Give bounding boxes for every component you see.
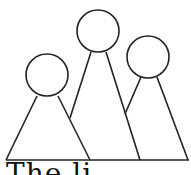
right-head xyxy=(127,36,169,78)
left-head xyxy=(26,54,68,96)
middle-body-left xyxy=(70,52,91,118)
middle-body-right xyxy=(106,52,140,160)
people-diagram xyxy=(0,0,191,175)
caption-text: The li xyxy=(6,160,92,175)
right-body-left xyxy=(125,77,141,114)
left-body-left xyxy=(6,96,37,160)
right-body-right xyxy=(157,77,188,160)
middle-head xyxy=(77,10,119,52)
